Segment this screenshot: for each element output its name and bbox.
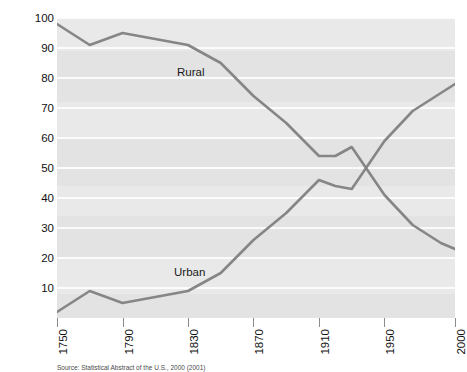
x-tick-label: 1910	[319, 329, 331, 355]
x-tick-mark	[253, 318, 254, 327]
x-tick-mark	[455, 318, 456, 327]
x-tick-mark	[384, 318, 385, 327]
y-tick-label: 80	[20, 72, 54, 84]
y-tick-label: 10	[20, 282, 54, 294]
y-tick-label: 100	[20, 12, 54, 24]
y-axis-tick-labels: 102030405060708090100	[17, 0, 54, 371]
x-tick-label: 1830	[188, 329, 200, 355]
x-tick-label: 1870	[253, 329, 265, 355]
x-tick-label: 1950	[384, 329, 396, 355]
plot-area: Rural Urban	[57, 18, 455, 318]
y-tick-label: 60	[20, 132, 54, 144]
series-label-urban: Urban	[174, 266, 205, 278]
x-tick-mark	[123, 318, 124, 327]
y-tick-label: 90	[20, 42, 54, 54]
y-tick-label: 40	[20, 192, 54, 204]
chart-source-caption: Source: Statistical Abstract of the U.S.…	[57, 364, 457, 372]
series-label-rural: Rural	[177, 66, 204, 78]
x-tick-mark	[188, 318, 189, 327]
x-tick-label: 2000	[455, 329, 467, 355]
x-tick-mark	[57, 318, 58, 327]
series-line-urban	[57, 84, 455, 312]
y-tick-label: 20	[20, 252, 54, 264]
x-tick-label: 1790	[123, 329, 135, 355]
series-lines	[57, 18, 455, 318]
y-tick-label: 50	[20, 162, 54, 174]
series-line-rural	[57, 24, 455, 249]
x-tick-label: 1750	[57, 329, 69, 355]
x-tick-mark	[319, 318, 320, 327]
y-tick-label: 30	[20, 222, 54, 234]
y-tick-label: 70	[20, 102, 54, 114]
